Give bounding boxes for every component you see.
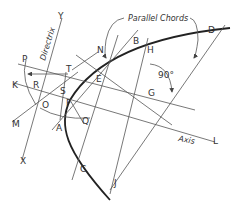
point-x: X: [20, 156, 26, 166]
label-directrix: Directrix: [38, 26, 57, 62]
point-q: Q: [82, 116, 89, 126]
point-y: Y: [57, 11, 64, 21]
label-parallel-chords: Parallel Chords: [128, 14, 188, 23]
point-f: F: [66, 98, 71, 108]
point-c: C: [80, 164, 86, 174]
point-h: H: [147, 45, 154, 55]
point-o: O: [42, 100, 49, 110]
point-l: L: [213, 136, 218, 146]
point-g: G: [148, 88, 155, 98]
callout-right: [190, 18, 198, 58]
point-n: N: [97, 45, 104, 55]
point-k: K: [12, 80, 19, 90]
label-angle: 90°: [158, 70, 174, 80]
point-m: M: [12, 119, 20, 129]
axis-line: [14, 83, 215, 142]
point-b: B: [133, 36, 139, 46]
callout-left: [105, 18, 124, 58]
point-r: R: [33, 80, 39, 90]
point-s: S: [60, 86, 66, 96]
label-axis: Axis: [177, 134, 196, 146]
chord-dj: [110, 25, 225, 190]
point-e: E: [96, 74, 102, 84]
point-t: T: [65, 64, 72, 74]
line-tn: [72, 52, 98, 70]
point-d: D: [208, 25, 215, 35]
point-j: J: [113, 178, 117, 188]
chord-h: [110, 38, 148, 194]
point-a: A: [56, 123, 63, 133]
parabola-construction-diagram: Parallel Chords Directrix Axis 90° Y P K…: [0, 0, 235, 204]
point-p: P: [22, 54, 28, 64]
